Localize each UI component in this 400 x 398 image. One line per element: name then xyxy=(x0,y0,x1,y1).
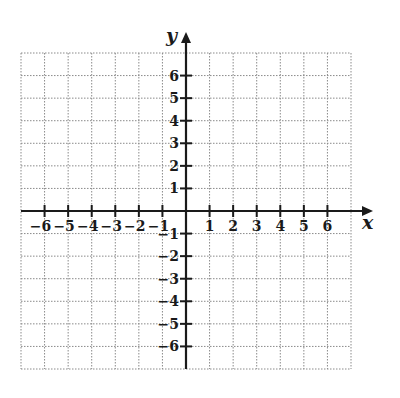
y-tick-label: 3 xyxy=(169,135,179,151)
x-tick-label: 5 xyxy=(299,218,309,234)
y-tick-label: −3 xyxy=(158,271,179,287)
y-tick-label: 2 xyxy=(169,158,179,174)
y-tick-label: −4 xyxy=(158,293,180,309)
x-tick-label: −5 xyxy=(53,218,74,234)
y-tick-label: −6 xyxy=(158,338,179,354)
y-tick-label: 1 xyxy=(169,180,179,196)
x-tick-label: 2 xyxy=(228,218,238,234)
y-axis-label: y xyxy=(165,24,179,46)
y-tick-label: −2 xyxy=(158,248,179,264)
y-tick-label: −1 xyxy=(158,226,179,242)
y-tick-label: 5 xyxy=(169,90,179,106)
x-tick-label: 1 xyxy=(205,218,215,234)
coordinate-plane: −6−5−4−3−2−1123456654321−1−2−3−4−5−6 x y xyxy=(0,0,400,398)
x-tick-label: −3 xyxy=(101,218,122,234)
x-tick-label: 6 xyxy=(323,218,333,234)
axes xyxy=(21,32,373,369)
x-tick-label: 4 xyxy=(275,218,285,234)
y-tick-label: −5 xyxy=(158,316,179,332)
x-tick-label: −2 xyxy=(124,218,145,234)
y-tick-label: 4 xyxy=(169,113,179,129)
y-axis-arrow-icon xyxy=(181,32,191,43)
x-axis-label: x xyxy=(361,211,374,233)
y-tick-label: 6 xyxy=(169,68,179,84)
x-tick-label: 3 xyxy=(252,218,262,234)
x-tick-label: −4 xyxy=(77,218,99,234)
x-tick-label: −6 xyxy=(30,218,51,234)
